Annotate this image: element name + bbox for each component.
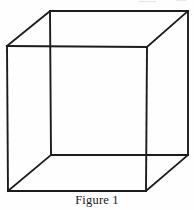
front-right-edge [146, 47, 147, 191]
figure-container: Figure 1 [0, 0, 194, 210]
wireframe-cube-drawing [0, 0, 194, 210]
connector-bottom-right-edge [146, 155, 188, 191]
back-left-edge [50, 11, 51, 155]
front-top-edge [7, 46, 147, 47]
connector-top-left-edge [7, 11, 50, 46]
scan-artifacts [138, 0, 186, 2]
connector-top-right-edge [147, 11, 188, 47]
front-left-edge [7, 46, 8, 191]
connector-bottom-left-edge [8, 155, 51, 191]
figure-caption: Figure 1 [0, 193, 194, 207]
